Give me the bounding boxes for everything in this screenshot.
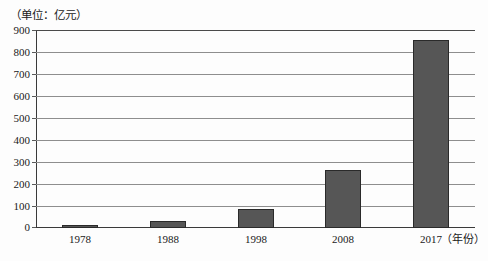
y-tick-mark-0 [32,227,36,228]
y-tick-label-800: 800 [14,47,31,58]
chart-screenshot: （单位：亿元） 9008007006005004003002001000 197… [0,0,488,261]
y-axis-line [36,30,37,228]
x-tick-label-2008: 2008 [332,234,354,245]
y-tick-label-600: 600 [14,91,31,102]
gridline-600 [36,96,475,97]
x-axis-unit-label: （年份） [441,234,485,245]
gridline-700 [36,74,475,75]
y-tick-mark-300 [32,162,36,163]
y-tick-mark-200 [32,184,36,185]
bar-2017 [413,40,449,228]
y-tick-mark-900 [32,30,36,31]
y-tick-mark-600 [32,96,36,97]
gridline-200 [36,184,475,185]
y-tick-label-300: 300 [14,157,31,168]
y-tick-label-100: 100 [14,201,31,212]
y-axis-unit-caption: （单位：亿元） [10,6,87,22]
y-tick-label-200: 200 [14,179,31,190]
gridline-300 [36,162,475,163]
y-tick-label-500: 500 [14,113,31,124]
y-tick-label-900: 900 [14,25,31,36]
y-tick-mark-100 [32,206,36,207]
gridline-500 [36,118,475,119]
bar-2008 [325,170,361,228]
x-tick-label-2017: 2017 [420,234,442,245]
bar-1998 [238,209,274,228]
y-tick-mark-800 [32,52,36,53]
gridline-900 [36,30,475,31]
gridline-400 [36,140,475,141]
x-tick-label-1988: 1988 [157,234,179,245]
x-tick-label-1978: 1978 [69,234,91,245]
gridline-100 [36,206,475,207]
y-tick-mark-400 [32,140,36,141]
x-tick-label-1998: 1998 [245,234,267,245]
y-tick-label-700: 700 [14,69,31,80]
y-tick-mark-500 [32,118,36,119]
y-tick-mark-700 [32,74,36,75]
bar-1978 [62,225,98,228]
bar-1988 [150,221,186,228]
y-tick-label-400: 400 [14,135,31,146]
y-tick-label-0: 0 [25,222,31,233]
plot-area: 9008007006005004003002001000 [36,30,475,228]
gridline-800 [36,52,475,53]
